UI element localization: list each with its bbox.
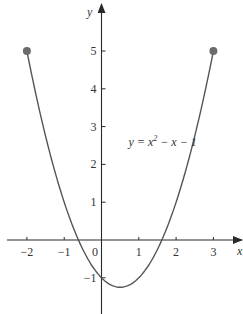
parabola-curve [27,51,214,287]
x-axis-label: x [236,244,243,258]
tick-marks [27,51,214,278]
x-tick-label: 2 [173,245,179,259]
endpoint-dot [209,47,217,55]
y-tick-label: 1 [91,195,97,209]
endpoint-dot [23,47,31,55]
x-tick-label: 1 [136,245,142,259]
x-tick-label: −1 [58,245,71,259]
equation-label: y = x2 − x − 1 [128,134,197,149]
y-tick-label: 5 [91,44,97,58]
y-tick-label: 2 [91,157,97,171]
origin-label: 0 [92,245,98,259]
parabola-chart: −2−112312345−1 x y 0 y = x2 − x − 1 [0,0,243,314]
y-tick-label: −1 [84,271,97,285]
y-tick-label: 4 [91,82,97,96]
y-tick-label: 3 [91,120,97,134]
y-axis-label: y [86,5,93,19]
endpoint-dots [23,47,218,55]
axes [7,4,242,314]
x-tick-label: −2 [21,245,34,259]
x-tick-label: 3 [210,245,216,259]
